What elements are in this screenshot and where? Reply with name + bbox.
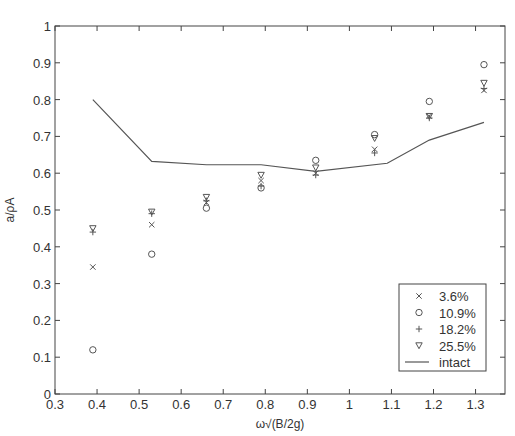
circle-marker-icon bbox=[203, 205, 209, 211]
series-line-intact bbox=[93, 100, 484, 172]
x-tick-label: 1 bbox=[346, 397, 353, 412]
legend-label: 3.6% bbox=[439, 289, 469, 304]
x-tick-label: 0.4 bbox=[88, 397, 106, 412]
y-tick-label: 0.9 bbox=[33, 56, 51, 71]
plus-marker-icon bbox=[371, 150, 377, 156]
y-tick-label: 0.2 bbox=[33, 313, 51, 328]
x-marker-icon bbox=[90, 264, 95, 269]
circle-marker-icon bbox=[426, 98, 432, 104]
y-tick-label: 0 bbox=[44, 387, 51, 402]
series-25.5% bbox=[90, 80, 488, 231]
triangle-marker-icon bbox=[90, 226, 96, 232]
y-tick-label: 0.1 bbox=[33, 350, 51, 365]
triangle-marker-icon bbox=[313, 165, 319, 171]
x-marker-icon bbox=[149, 222, 154, 227]
circle-marker-icon bbox=[149, 251, 155, 257]
y-tick-label: 0.4 bbox=[33, 240, 51, 255]
x-tick-label: 0.8 bbox=[256, 397, 274, 412]
circle-marker-icon bbox=[90, 347, 96, 353]
y-tick-label: 0.7 bbox=[33, 129, 51, 144]
x-tick-label: 0.9 bbox=[298, 397, 316, 412]
x-tick-label: 1.2 bbox=[424, 397, 442, 412]
circle-marker-icon bbox=[481, 61, 487, 67]
x-tick-label: 1.1 bbox=[382, 397, 400, 412]
triangle-marker-icon bbox=[203, 194, 209, 200]
x-tick-label: 1.3 bbox=[467, 397, 485, 412]
triangle-marker-icon bbox=[371, 136, 377, 142]
legend-label: 10.9% bbox=[439, 306, 476, 321]
y-tick-label: 0.6 bbox=[33, 166, 51, 181]
circle-marker-icon bbox=[313, 157, 319, 163]
x-tick-label: 0.6 bbox=[172, 397, 190, 412]
chart: 0.30.40.50.60.70.80.911.11.21.300.10.20.… bbox=[0, 0, 515, 436]
triangle-marker-icon bbox=[258, 172, 264, 178]
x-tick-label: 0.5 bbox=[130, 397, 148, 412]
triangle-marker-icon bbox=[481, 80, 487, 86]
y-tick-label: 0.5 bbox=[33, 203, 51, 218]
legend-label: 25.5% bbox=[439, 339, 476, 354]
y-tick-label: 1 bbox=[44, 19, 51, 34]
plus-marker-icon bbox=[258, 183, 264, 189]
y-tick-label: 0.3 bbox=[33, 277, 51, 292]
plus-marker-icon bbox=[313, 172, 319, 178]
x-tick-label: 0.7 bbox=[214, 397, 232, 412]
x-axis-label: ω√(B/2g) bbox=[256, 417, 305, 431]
y-axis-label: a/ρA bbox=[3, 198, 17, 223]
legend-label: intact bbox=[439, 355, 470, 370]
legend-label: 18.2% bbox=[439, 322, 476, 337]
y-tick-label: 0.8 bbox=[33, 93, 51, 108]
series-18.2% bbox=[90, 85, 488, 235]
legend: 3.6%10.9%18.2%25.5%intact bbox=[399, 284, 486, 371]
